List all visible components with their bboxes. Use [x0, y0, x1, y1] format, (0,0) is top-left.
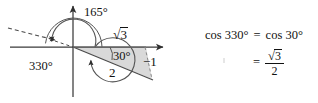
- side-label-opposite: −1: [143, 55, 157, 68]
- angle-arc-outer: [46, 18, 74, 43]
- equation-block: cos 330° = cos 30° = √3 2: [205, 26, 315, 77]
- equation-equals-2: =: [253, 55, 260, 70]
- side-label-adjacent: √3: [112, 27, 128, 42]
- angle-arc-outer-right: [73, 18, 102, 47]
- equation-line-1: cos 330° = cos 30°: [205, 26, 315, 44]
- equation-rhs: cos 30°: [266, 28, 303, 43]
- angle-label-165: 165°: [84, 6, 108, 19]
- radicand: 3: [120, 27, 129, 41]
- side-label-hypotenuse: 2: [109, 66, 116, 79]
- equation-lhs: cos 330°: [205, 28, 249, 43]
- fraction-denominator: 2: [270, 64, 280, 77]
- figure-page: 165° 330° 30° 2 −1 √3 cos 330° = cos 30°…: [0, 0, 318, 103]
- radical-group-numerator: √3: [267, 49, 282, 63]
- angle-label-30: 30°: [113, 50, 131, 63]
- radicand-numerator: 3: [274, 49, 282, 62]
- angle-label-330: 330°: [29, 60, 53, 73]
- equation-equals-1: =: [254, 28, 261, 43]
- radical-group: √3: [112, 27, 128, 42]
- dashed-ray-continuation: [55, 41, 73, 47]
- fraction-sqrt3-over-2: √3 2: [265, 49, 284, 78]
- fraction-numerator: √3: [265, 49, 284, 64]
- equation-line-2: = √3 2: [205, 47, 315, 77]
